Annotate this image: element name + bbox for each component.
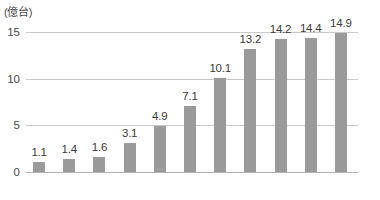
bar-value-label: 14.4: [300, 22, 322, 34]
bar: [184, 106, 196, 172]
bar-value-label: 14.9: [330, 17, 352, 29]
bar: [63, 159, 75, 172]
y-axis-tick-label: 0: [14, 166, 20, 178]
y-axis-tick-label: 10: [7, 73, 20, 85]
bar: [335, 33, 347, 172]
y-axis-tick-label: 5: [14, 119, 20, 131]
bar-value-label: 14.2: [270, 23, 292, 35]
bar: [124, 143, 136, 172]
bar: [93, 157, 105, 172]
bar-value-label: 1.6: [92, 141, 107, 153]
bar-value-label: 1.1: [31, 146, 46, 158]
plot-area: 0510151.11.41.63.14.97.110.113.214.214.4…: [26, 32, 358, 172]
y-axis-tick-label: 15: [7, 26, 20, 38]
bar-value-label: 4.9: [152, 110, 167, 122]
bar: [214, 78, 226, 172]
bar-value-label: 1.4: [62, 143, 77, 155]
bar: [154, 126, 166, 172]
x-axis-line: [26, 172, 358, 173]
bar: [305, 38, 317, 172]
bar-value-label: 3.1: [122, 127, 137, 139]
bar: [33, 162, 45, 172]
bar: [244, 49, 256, 172]
bar-chart: (億台) 0510151.11.41.63.14.97.110.113.214.…: [0, 0, 380, 200]
bar-value-label: 7.1: [182, 90, 197, 102]
bar-value-label: 13.2: [240, 33, 262, 45]
y-axis-unit-label: (億台): [4, 3, 32, 19]
bar-value-label: 10.1: [209, 62, 231, 74]
bar: [275, 39, 287, 172]
